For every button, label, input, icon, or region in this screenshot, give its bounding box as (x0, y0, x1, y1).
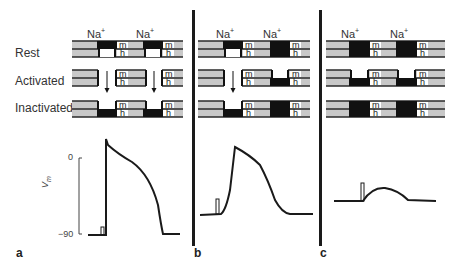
panel-c-inactivated-membrane (326, 101, 445, 117)
gate-h-label: h (293, 48, 298, 58)
panel-a-voltage-axis (79, 158, 82, 234)
gate-h-label: h (420, 108, 425, 118)
gate-h-label: h (420, 48, 425, 58)
panel-a-stimulus-marker (101, 227, 104, 235)
gate-h-label: h (293, 108, 298, 118)
panel-b-stimulus-marker (216, 199, 219, 214)
gate-h-label: h (166, 48, 171, 58)
gate-h-label: h (373, 48, 378, 58)
axis-label-sub: m (45, 176, 52, 182)
gate-h-label: h (166, 77, 171, 87)
gate-h-label: h (246, 77, 251, 87)
gate-h-label: h (120, 108, 125, 118)
gate-h-label: h (246, 108, 251, 118)
gate-h-label: h (373, 108, 378, 118)
gate-h-label: h (246, 48, 251, 58)
gate-h-label: h (373, 77, 378, 87)
panel-c-activated-membrane (326, 70, 445, 86)
gate-h-label: h (120, 77, 125, 87)
gate-h-label: h (293, 77, 298, 87)
panel-c-rest-membrane (326, 41, 445, 57)
axis-tick-0: 0 (68, 152, 73, 162)
axis-tick-minus90: −90 (58, 229, 73, 239)
gate-h-label: h (120, 48, 125, 58)
panel-letter-a: a (16, 246, 23, 260)
panel-divider-bc (319, 10, 322, 246)
panel-a-action-potential-trace (88, 139, 180, 235)
panel-c-action-potential-trace (334, 188, 436, 201)
panel-b-action-potential-trace (200, 147, 313, 215)
panel-letter-b: b (194, 246, 201, 260)
panel-c-stimulus-marker (361, 183, 364, 201)
membrane-schematic (0, 0, 455, 266)
gate-h-label: h (166, 108, 171, 118)
axis-label-v: V (40, 182, 50, 188)
gate-h-label: h (420, 77, 425, 87)
panel-letter-c: c (320, 246, 327, 260)
panel-divider-ab (192, 10, 195, 246)
axis-label-vm: Vm (40, 176, 52, 188)
